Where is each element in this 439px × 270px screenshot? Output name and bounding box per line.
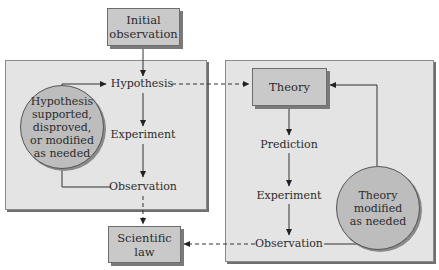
experiment-right-label: Experiment bbox=[256, 189, 321, 202]
theory-cycle-label: Theory modified as needed bbox=[348, 189, 408, 228]
hypothesis-cycle-label: Hypothesis supported, disproved, or modi… bbox=[27, 95, 97, 160]
initial-observation-label: Initial observation bbox=[109, 13, 177, 41]
observation-right-label: Observation bbox=[255, 237, 323, 250]
experiment-left-label: Experiment bbox=[110, 128, 175, 141]
theory-cycle-circle: Theory modified as needed bbox=[336, 166, 420, 250]
theory-box: Theory bbox=[252, 68, 327, 106]
initial-observation-box: Initial observation bbox=[107, 8, 180, 46]
hypothesis-label: Hypothesis bbox=[111, 77, 173, 90]
scientific-law-label: Scientific law bbox=[117, 231, 172, 259]
observation-left-label: Observation bbox=[109, 180, 177, 193]
theory-label: Theory bbox=[269, 80, 310, 94]
hypothesis-cycle-circle: Hypothesis supported, disproved, or modi… bbox=[20, 85, 104, 169]
prediction-label: Prediction bbox=[260, 138, 318, 151]
scientific-law-box: Scientific law bbox=[108, 226, 181, 263]
